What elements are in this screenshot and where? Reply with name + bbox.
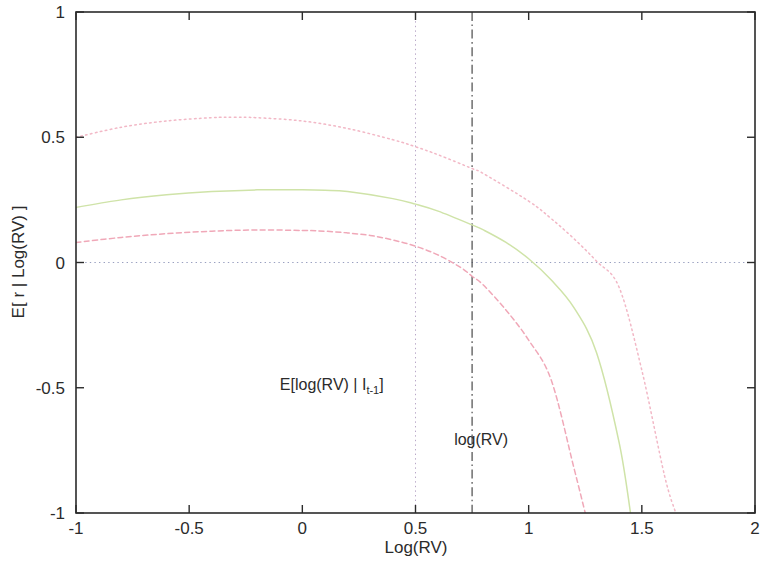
chart-figure: -1-0.500.511.52-1-0.500.51 E[log(RV) | I… xyxy=(0,0,762,564)
y-tick-label: 0 xyxy=(56,254,65,273)
y-tick-label: -1 xyxy=(50,504,65,523)
line-chart: -1-0.500.511.52-1-0.500.51 E[log(RV) | I… xyxy=(0,0,762,564)
x-tick-label: 2 xyxy=(750,519,759,538)
x-tick-label: 0 xyxy=(298,519,307,538)
x-tick-label: 1.5 xyxy=(630,519,654,538)
x-tick-label: 1 xyxy=(524,519,533,538)
x-axis-title: Log(RV) xyxy=(385,538,448,557)
x-tick-label: -0.5 xyxy=(175,519,204,538)
x-tick-label: -1 xyxy=(68,519,83,538)
y-tick-label: -0.5 xyxy=(36,379,65,398)
log-rv-annotation: log(RV) xyxy=(454,431,508,448)
y-tick-label: 0.5 xyxy=(41,128,65,147)
y-axis-title: E[ r | Log(RV) ] xyxy=(9,206,28,319)
x-tick-label: 0.5 xyxy=(404,519,428,538)
y-tick-label: 1 xyxy=(56,3,65,22)
